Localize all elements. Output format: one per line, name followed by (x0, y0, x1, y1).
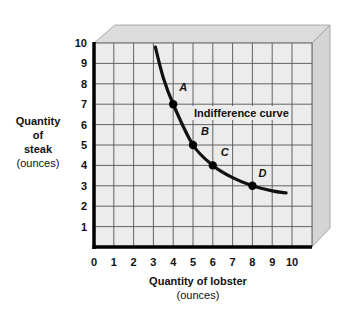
point-c (209, 161, 217, 169)
box-top-face (94, 25, 330, 43)
x-tick-label: 2 (131, 256, 137, 268)
curve-label: Indifference curve (194, 107, 289, 119)
point-label-b: B (201, 125, 209, 137)
x-tick-label: 9 (269, 256, 275, 268)
y-tick-label: 1 (81, 221, 87, 233)
y-axis-unit: (ounces) (2, 156, 74, 170)
x-tick-label: 7 (230, 256, 236, 268)
box-side-face (312, 25, 330, 247)
point-d (248, 182, 256, 190)
y-tick-label: 5 (81, 139, 87, 151)
x-tick-label: 6 (210, 256, 216, 268)
point-label-a: A (178, 81, 187, 93)
point-b (189, 141, 197, 149)
y-tick-label: 4 (81, 159, 88, 171)
y-axis-label-line3: steak (2, 142, 74, 156)
y-tick-label: 8 (81, 78, 87, 90)
x-tick-label: 8 (249, 256, 255, 268)
y-tick-label: 9 (81, 57, 87, 69)
y-tick-label: 6 (81, 119, 87, 131)
y-axis-label-line1: Quantity (2, 114, 74, 128)
x-tick-label: 4 (170, 256, 177, 268)
y-tick-label: 10 (75, 37, 87, 49)
x-axis-unit: (ounces) (120, 288, 276, 302)
point-label-d: D (258, 167, 266, 179)
x-axis-label: Quantity of lobster (ounces) (120, 274, 276, 302)
point-label-c: C (221, 146, 230, 158)
x-tick-label: 0 (91, 256, 97, 268)
x-tick-label: 10 (286, 256, 298, 268)
y-tick-label: 3 (81, 180, 87, 192)
point-a (169, 100, 177, 108)
x-tick-label: 3 (150, 256, 156, 268)
y-axis-label: Quantity of steak (ounces) (2, 114, 74, 170)
x-tick-label: 5 (190, 256, 196, 268)
y-tick-label: 2 (81, 200, 87, 212)
y-tick-label: 7 (81, 98, 87, 110)
y-axis-label-line2: of (2, 128, 74, 142)
x-tick-label: 1 (111, 256, 117, 268)
x-axis-label-main: Quantity of lobster (120, 274, 276, 288)
